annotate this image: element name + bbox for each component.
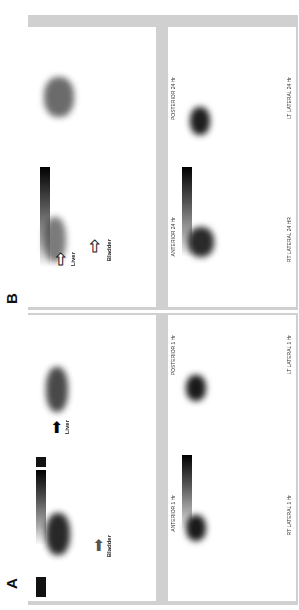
panel-b-right: POSTERIOR 24 Hr LT LATERAL 24 Hr ANTERIO… xyxy=(168,27,296,307)
view-label: RT LATERAL 1 Hr xyxy=(286,495,292,535)
colorbar-posterior-1hr xyxy=(36,470,46,545)
colorbar-box xyxy=(36,577,46,597)
panel-b-left: ⬆ Liver ⬆ Bladder xyxy=(28,27,156,307)
liver-label: Liver xyxy=(70,252,76,266)
view-label: LT LATERAL 24 Hr xyxy=(286,77,292,119)
liver-label: Liver xyxy=(64,420,70,434)
colorbar-box xyxy=(36,457,46,467)
liver-arrow-icon: ⬆ xyxy=(54,252,67,268)
view-label: POSTERIOR 24 Hr xyxy=(170,77,176,120)
view-label: RT LATERAL 24 HR xyxy=(286,217,292,262)
scan-lt-lateral-1hr xyxy=(186,375,206,401)
panel-label-a: A xyxy=(3,578,20,589)
view-label: ANTERIOR 1 Hr xyxy=(170,495,176,532)
liver-arrow-icon: ⬆ xyxy=(50,420,63,436)
view-label: POSTERIOR 1 Hr xyxy=(170,335,176,375)
panel-label-b: B xyxy=(3,293,20,304)
bladder-arrow-icon: ⬆ xyxy=(88,239,101,255)
scan-rt-lateral-1hr xyxy=(186,515,206,541)
bladder-label: Bladder xyxy=(106,535,112,557)
panel-a-left: ⬆ Liver ⬆ Bladder xyxy=(28,315,156,601)
panel-a-right: POSTERIOR 1 Hr LT LATERAL 1 Hr ANTERIOR … xyxy=(168,315,296,601)
scan-anterior-1hr xyxy=(46,513,70,555)
panel-a: ⬆ Liver ⬆ Bladder POSTERIOR 1 Hr LT LATE… xyxy=(28,313,298,605)
scan-posterior-24hr xyxy=(44,77,74,117)
panel-b: ⬆ Liver ⬆ Bladder POSTERIOR 24 Hr LT LAT… xyxy=(28,15,298,310)
view-label: ANTERIOR 24 Hr xyxy=(170,217,176,256)
scan-rt-lateral-24hr xyxy=(188,227,214,257)
bladder-label: Bladder xyxy=(106,239,112,261)
scan-posterior-1hr xyxy=(46,367,68,412)
view-label: LT LATERAL 1 Hr xyxy=(286,335,292,374)
scan-lt-lateral-24hr xyxy=(190,107,210,135)
bladder-arrow-icon: ⬆ xyxy=(92,538,105,554)
